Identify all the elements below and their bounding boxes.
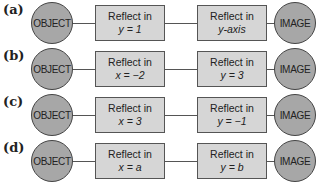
step2-box: Reflect in y-axis [197,5,267,41]
object-node: OBJECT [31,94,73,136]
object-node: OBJECT [31,2,73,44]
image-node: IMAGE [274,2,316,44]
step-equation: y-axis [198,23,266,36]
step-title: Reflect in [108,148,152,160]
step-equation: x = 3 [96,115,164,128]
row-label: (d) [3,140,24,155]
row-d: (d) OBJECT Reflect in x = a Reflect in y… [0,138,335,184]
step2-box: Reflect in y = b [197,143,267,179]
step-title: Reflect in [108,10,152,22]
step1-box: Reflect in x = −2 [95,51,165,87]
step-title: Reflect in [210,56,254,68]
row-label: (c) [3,94,23,109]
step1-box: Reflect in x = a [95,143,165,179]
image-node: IMAGE [274,48,316,90]
step-equation: x = a [96,161,164,174]
step-equation: x = −2 [96,69,164,82]
row-c: (c) OBJECT Reflect in x = 3 Reflect in y… [0,92,335,138]
step-equation: y = 1 [96,23,164,36]
step1-box: Reflect in x = 3 [95,97,165,133]
image-node: IMAGE [274,140,316,182]
step-title: Reflect in [210,148,254,160]
step-title: Reflect in [108,102,152,114]
row-a: (a) OBJECT Reflect in y = 1 Reflect in y… [0,0,335,46]
step-title: Reflect in [210,102,254,114]
row-b: (b) OBJECT Reflect in x = −2 Reflect in … [0,46,335,92]
step2-box: Reflect in y = 3 [197,51,267,87]
step-equation: y = −1 [198,115,266,128]
step-equation: y = 3 [198,69,266,82]
step-equation: y = b [198,161,266,174]
step1-box: Reflect in y = 1 [95,5,165,41]
row-label: (b) [3,48,24,63]
object-node: OBJECT [31,140,73,182]
step-title: Reflect in [108,56,152,68]
object-node: OBJECT [31,48,73,90]
step2-box: Reflect in y = −1 [197,97,267,133]
step-title: Reflect in [210,10,254,22]
row-label: (a) [3,2,24,17]
image-node: IMAGE [274,94,316,136]
